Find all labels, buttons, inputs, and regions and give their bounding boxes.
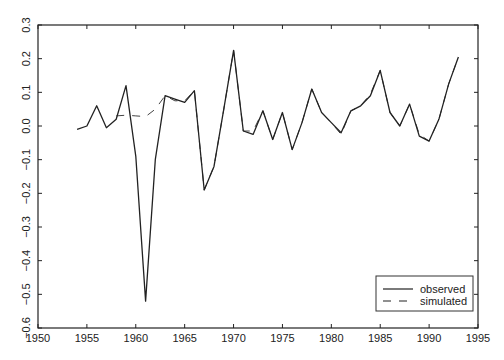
- y-tick-label: −0.5: [20, 283, 32, 305]
- x-tick-label: 1965: [172, 332, 196, 344]
- y-tick-label: −0.4: [20, 250, 32, 272]
- x-tick-label: 1955: [75, 332, 99, 344]
- x-tick-label: 1960: [124, 332, 148, 344]
- series-line-observed: [77, 50, 458, 301]
- y-tick-label: 0.3: [20, 17, 32, 32]
- x-tick-label: 1990: [417, 332, 441, 344]
- series-line-simulated: [116, 50, 458, 190]
- y-tick-label: 0.0: [20, 118, 32, 133]
- legend-label-simulated: simulated: [420, 295, 467, 307]
- x-tick-label: 1985: [368, 332, 392, 344]
- y-tick-label: 0.1: [20, 85, 32, 100]
- legend-label-observed: observed: [420, 283, 465, 295]
- x-tick-label: 1980: [319, 332, 343, 344]
- x-tick-label: 1975: [270, 332, 294, 344]
- y-tick-label: −0.2: [20, 182, 32, 204]
- y-tick-label: −0.6: [20, 317, 32, 339]
- x-tick-label: 1970: [221, 332, 245, 344]
- y-tick-label: 0.2: [20, 51, 32, 66]
- data-series: [77, 50, 458, 301]
- y-tick-label: −0.3: [20, 216, 32, 238]
- line-chart: 1950195519601965197019751980198519901995…: [0, 0, 504, 360]
- legend: observed simulated: [376, 276, 473, 311]
- y-tick-label: −0.1: [20, 149, 32, 171]
- x-tick-label: 1995: [466, 332, 490, 344]
